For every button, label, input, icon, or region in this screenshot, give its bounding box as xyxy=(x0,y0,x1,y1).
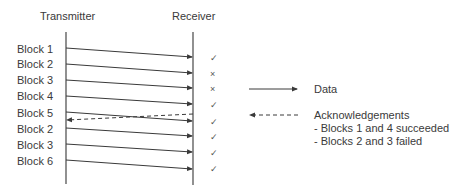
check-icon: ✓ xyxy=(210,148,218,158)
block-label: Block 2 xyxy=(17,123,53,135)
check-icon: ✓ xyxy=(210,132,218,142)
data-arrow-block-4 xyxy=(66,96,192,104)
block-label: Block 3 xyxy=(17,74,53,86)
legend-data-label: Data xyxy=(314,83,337,95)
block-label: Block 2 xyxy=(17,58,53,70)
data-arrow-block-5 xyxy=(66,112,192,121)
cross-icon: × xyxy=(210,69,215,79)
legend-ack-note: - Blocks 2 and 3 failed xyxy=(314,135,422,147)
check-icon: ✓ xyxy=(210,164,218,174)
data-arrow-block-6 xyxy=(66,160,192,169)
check-icon: ✓ xyxy=(210,117,218,127)
block-label: Block 6 xyxy=(17,155,53,167)
data-arrow-block-3 xyxy=(66,80,192,88)
data-arrow-block-2 xyxy=(66,64,192,73)
data-arrow-block-1 xyxy=(66,48,192,57)
check-icon: ✓ xyxy=(210,53,218,63)
block-label: Block 1 xyxy=(17,43,53,55)
data-arrow-block-2-resend xyxy=(66,128,192,136)
cross-icon: × xyxy=(210,84,215,94)
block-label: Block 4 xyxy=(17,90,53,102)
ack-arrow xyxy=(67,114,193,120)
legend-ack-note: - Blocks 1 and 4 succeeded xyxy=(314,122,449,134)
data-arrow-block-3-resend xyxy=(66,144,192,152)
check-icon: ✓ xyxy=(210,100,218,110)
diagram-lines xyxy=(0,0,467,192)
block-label: Block 5 xyxy=(17,107,53,119)
block-label: Block 3 xyxy=(17,139,53,151)
legend-ack-label: Acknowledgements xyxy=(314,109,409,121)
